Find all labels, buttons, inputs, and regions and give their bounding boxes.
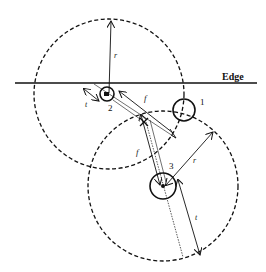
node-2-center: [104, 92, 109, 96]
radius-label-upper: r: [114, 51, 118, 60]
diagram-canvas: Edge r 2 t 1 f f 3 r t: [0, 0, 266, 272]
f-arrow-upper-tail-head: [170, 129, 176, 138]
path-line-inner: [113, 100, 140, 119]
t-label-upper: t: [85, 100, 88, 109]
node-1-label: 1: [200, 97, 205, 107]
f-label-upper: f: [144, 93, 148, 103]
radius-label-lower: r: [193, 156, 197, 165]
node-3-center: [161, 184, 165, 188]
node-3-label: 3: [169, 161, 174, 171]
dotted-center-line: [146, 122, 183, 257]
edge-label: Edge: [222, 71, 244, 82]
node-2-label: 2: [108, 103, 113, 113]
radius-arrow-lower: [166, 132, 213, 185]
f-label-lower: f: [136, 147, 140, 157]
t-label-lower: t: [195, 213, 198, 222]
